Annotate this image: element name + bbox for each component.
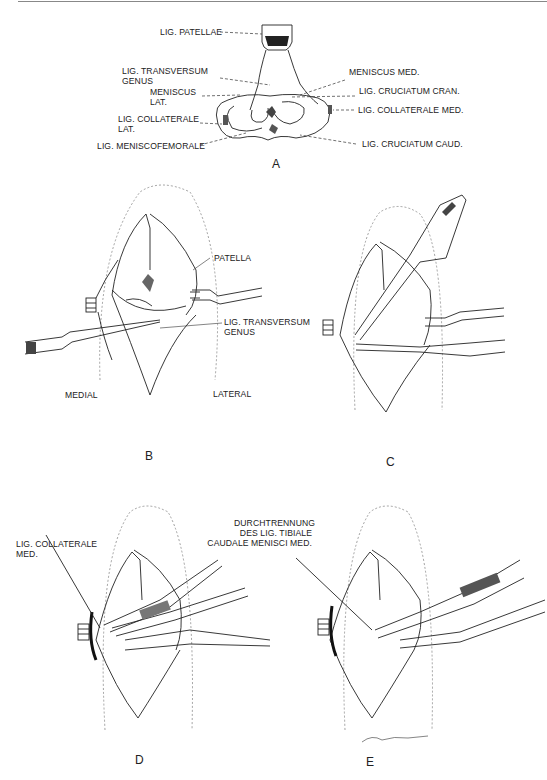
label-lig-meniscofemorale: LIG. MENISCOFEMORALE (97, 141, 205, 151)
label-lig-collaterale-med: LIG. COLLATERALE MED. (358, 105, 464, 115)
label-meniscus-lat-1: MENISCUS (150, 87, 196, 97)
label-lig-collaterale-lat-2: LAT. (118, 124, 135, 134)
panel-label-b: B (145, 449, 153, 463)
panel-label-d: D (135, 753, 144, 767)
panel-e-drawing (296, 506, 545, 742)
label-lig-collaterale-med-d-2: MED. (16, 549, 38, 559)
label-lig-cruciatum-caud: LIG. CRUCIATUM CAUD. (362, 139, 463, 149)
label-meniscus-lat-2: LAT. (150, 97, 167, 107)
label-patella: PATELLA (214, 253, 251, 263)
panel-label-e: E (366, 755, 374, 769)
label-lig-transversum-genus-1: LIG. TRANSVERSUM (122, 66, 208, 76)
panel-label-c: C (386, 455, 395, 469)
panel-a-drawing (200, 25, 356, 145)
label-lig-collaterale-lat-1: LIG. COLLATERALE (118, 114, 199, 124)
label-durchtrennung-3: CAUDALE MENISCI MED. (204, 538, 312, 548)
panel-c-drawing (323, 195, 505, 412)
label-lig-patellae: LIG. PATELLAE (160, 27, 222, 37)
label-lig-cruciatum-cran: LIG. CRUCIATUM CRAN. (359, 86, 460, 96)
label-meniscus-med: MENISCUS MED. (349, 67, 420, 77)
label-durchtrennung-2: DES LIG. TIBIALE (214, 528, 312, 538)
panel-b-drawing (25, 185, 262, 395)
label-lateral: LATERAL (213, 389, 251, 399)
label-lig-transversum-b-2: GENUS (224, 327, 255, 337)
label-medial: MEDIAL (65, 390, 98, 400)
label-lig-transversum-genus-2: GENUS (122, 76, 153, 86)
panel-label-a: A (272, 157, 280, 171)
label-lig-transversum-b-1: LIG. TRANSVERSUM (224, 317, 310, 327)
label-durchtrennung-1: DURCHTRENNUNG (234, 518, 312, 528)
label-lig-collaterale-med-d-1: LIG. COLLATERALE (16, 539, 97, 549)
